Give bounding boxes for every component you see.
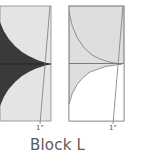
- left-dimension-label: 1": [36, 124, 44, 132]
- diagram-title: Block L: [30, 136, 85, 154]
- block-l-diagram: [0, 0, 145, 155]
- right-dimension-label: 1": [109, 124, 117, 132]
- left-block: [0, 6, 51, 124]
- right-block: [69, 6, 124, 124]
